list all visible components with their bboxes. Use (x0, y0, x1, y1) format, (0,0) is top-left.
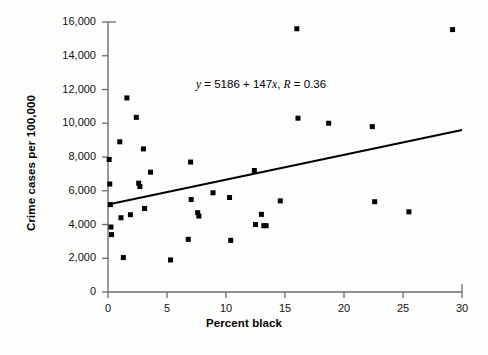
data-point (137, 184, 142, 189)
data-point (142, 206, 147, 211)
data-point (450, 27, 455, 32)
data-point (128, 212, 133, 217)
data-point (121, 255, 126, 260)
data-point (108, 225, 113, 230)
data-point (372, 199, 377, 204)
data-point (109, 232, 114, 237)
data-point (168, 257, 173, 262)
regression-line-group (108, 130, 462, 204)
data-point (148, 170, 153, 175)
data-point (211, 190, 216, 195)
data-point (186, 237, 191, 242)
data-point (294, 26, 299, 31)
data-point (118, 215, 123, 220)
data-points-group (107, 26, 455, 262)
data-point (107, 157, 112, 162)
data-point (196, 214, 201, 219)
data-point (188, 160, 193, 165)
data-point (253, 222, 258, 227)
data-point (295, 116, 300, 121)
data-point (117, 139, 122, 144)
data-point (108, 202, 113, 207)
data-point (406, 209, 411, 214)
scatter-plot-figure: Crime cases per 100,000 Percent black y … (0, 0, 488, 355)
data-point (134, 115, 139, 120)
data-point (259, 212, 264, 217)
data-point (141, 146, 146, 151)
data-point (227, 195, 232, 200)
data-point (252, 168, 257, 173)
data-point (228, 238, 233, 243)
data-point (107, 182, 112, 187)
data-point (326, 121, 331, 126)
data-point (264, 223, 269, 228)
plot-canvas (0, 0, 488, 355)
data-point (278, 198, 283, 203)
data-point (124, 95, 129, 100)
data-point (189, 197, 194, 202)
data-point (370, 124, 375, 129)
axes-group (102, 22, 462, 298)
